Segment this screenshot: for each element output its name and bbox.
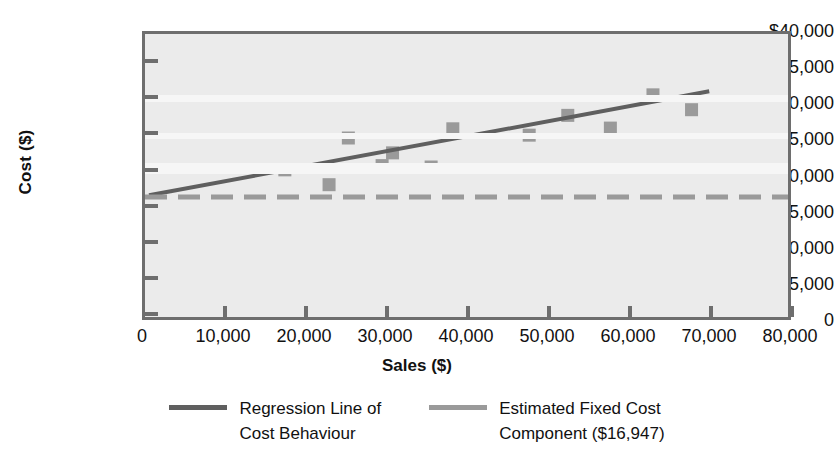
chart-series-layer	[145, 34, 788, 317]
x-tick-mark	[709, 306, 713, 317]
data-point-marker	[685, 103, 698, 116]
y-tick-mark	[145, 204, 158, 208]
x-tick-mark	[385, 306, 389, 317]
x-axis-title: Sales ($)	[0, 356, 834, 376]
x-tick-label: 80,000	[730, 326, 834, 347]
chart-legend: Regression Line of Cost Behaviour Estima…	[0, 396, 834, 446]
legend-swatch-dashed-line-icon	[429, 405, 487, 410]
y-tick-mark	[145, 276, 158, 280]
y-tick-mark	[145, 95, 158, 99]
background-band	[145, 133, 788, 139]
x-tick-mark	[547, 306, 551, 317]
y-tick-mark	[145, 59, 158, 63]
x-tick-mark	[628, 306, 632, 317]
y-tick-mark	[145, 168, 158, 172]
regression-line	[149, 91, 709, 195]
legend-label: Estimated Fixed Cost Component ($16,947)	[499, 396, 664, 446]
x-tick-mark	[304, 306, 308, 317]
y-axis-title: Cost ($)	[16, 92, 36, 232]
x-tick-mark	[466, 306, 470, 317]
y-tick-mark	[145, 131, 158, 135]
data-point-marker	[323, 178, 336, 191]
y-tick-mark	[145, 240, 158, 244]
y-tick-mark	[145, 312, 158, 316]
legend-swatch-solid-line-icon	[169, 405, 227, 410]
legend-item-regression-line: Regression Line of Cost Behaviour	[169, 396, 381, 446]
x-tick-mark	[790, 306, 794, 317]
plot-area	[142, 31, 791, 320]
cost-behaviour-scatter-chart: Cost ($) $40,000 35,000 30,000 25,000 20…	[0, 0, 834, 460]
background-band	[145, 163, 788, 174]
x-tick-mark	[223, 306, 227, 317]
background-band	[145, 95, 788, 102]
legend-item-fixed-cost-line: Estimated Fixed Cost Component ($16,947)	[429, 396, 664, 446]
legend-label: Regression Line of Cost Behaviour	[239, 396, 381, 446]
